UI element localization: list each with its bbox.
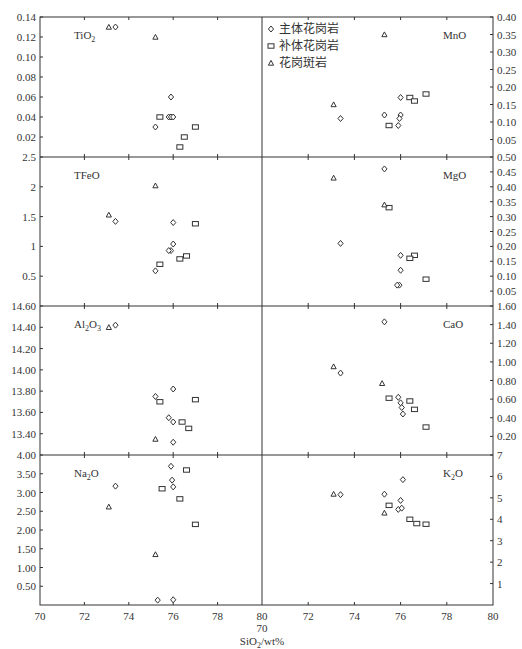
square-marker — [192, 222, 198, 226]
legend-label: 花岗斑岩 — [279, 55, 327, 70]
diamond-marker — [113, 483, 118, 489]
diamond-marker — [113, 218, 118, 224]
y-tick-label: 0.20 — [497, 240, 517, 252]
legend-item-triangle: 花岗斑岩 — [268, 55, 327, 70]
square-marker — [177, 145, 183, 149]
series-square — [386, 92, 429, 128]
square-marker — [407, 517, 413, 521]
square-marker — [179, 420, 185, 424]
y-tick-label: 14.00 — [11, 364, 36, 376]
diamond-marker — [382, 491, 387, 497]
y-tick-label: 6 — [497, 470, 503, 482]
series-square — [386, 396, 429, 429]
y-tick-label: 0.35 — [497, 196, 517, 208]
y-tick-label: 1 — [497, 578, 503, 590]
triangle-marker — [331, 102, 336, 107]
y-tick-label: 0.04 — [17, 111, 37, 123]
diamond-marker — [153, 268, 158, 274]
y-tick-label: 14.40 — [11, 321, 36, 333]
y-tick-label: 0.25 — [497, 64, 517, 76]
series-triangle — [331, 32, 387, 107]
series-square — [386, 503, 429, 526]
square-marker — [414, 521, 420, 525]
diamond-marker — [338, 116, 343, 122]
y-tick-label: 0.06 — [17, 91, 37, 103]
square-marker — [407, 399, 413, 403]
y-tick-label: 4.00 — [17, 449, 37, 461]
panel-mno: 0.050.100.150.200.250.300.350.40MnO — [308, 11, 517, 157]
diamond-marker — [169, 477, 174, 483]
diamond-marker — [168, 463, 173, 469]
square-marker — [407, 256, 413, 260]
triangle-marker — [106, 504, 111, 509]
y-tick-label: 0.10 — [497, 116, 517, 128]
square-marker — [192, 397, 198, 401]
x-tick-label: 72 — [79, 610, 90, 622]
y-tick-label: 2.00 — [17, 524, 37, 536]
triangle-marker — [382, 510, 387, 515]
legend-item-square: 补体花岗岩 — [268, 38, 339, 53]
x-tick-label: 74 — [123, 610, 135, 622]
diamond-marker — [398, 497, 403, 503]
x-tick-label: 78 — [441, 610, 453, 622]
diamond-marker — [382, 319, 387, 325]
y-tick-label: 1 — [31, 240, 37, 252]
y-tick-label: 0.15 — [497, 99, 517, 111]
y-tick-label: 3.00 — [17, 487, 37, 499]
x-tick-label-mid: 70 — [257, 622, 269, 634]
triangle-marker — [380, 381, 385, 386]
triangle-marker — [106, 325, 111, 330]
triangle-marker — [153, 183, 158, 188]
series-square — [159, 468, 198, 527]
series-triangle — [106, 504, 158, 556]
diamond-marker — [398, 252, 403, 258]
series-diamond — [338, 319, 406, 417]
y-tick-label: 1.00 — [17, 562, 37, 574]
panel-label-k2o: K2O — [443, 467, 463, 482]
plot-frame — [40, 17, 493, 605]
square-marker — [157, 400, 163, 404]
panel-na2o: 0.501.001.502.002.503.003.504.00Na2O — [17, 449, 218, 605]
y-tick-label: 2.50 — [17, 505, 37, 517]
square-marker — [411, 407, 417, 411]
y-tick-label: 3 — [497, 535, 503, 547]
y-tick-label: 0.15 — [497, 255, 517, 267]
y-tick-label: 0.12 — [17, 31, 36, 43]
diamond-marker — [338, 370, 343, 376]
y-tick-label: 0.50 — [17, 580, 37, 592]
y-tick-label: 7 — [497, 449, 503, 461]
triangle-marker — [106, 212, 111, 217]
panel-k2o: 1234567K2O — [308, 449, 503, 605]
y-tick-label: 1.50 — [17, 543, 37, 555]
diamond-marker — [166, 415, 171, 421]
legend: 主体花岗岩补体花岗岩花岗斑岩 — [268, 21, 339, 70]
square-marker — [186, 426, 192, 430]
diamond-marker — [400, 477, 405, 483]
y-tick-label: 0.80 — [497, 375, 517, 387]
diamond-marker — [338, 492, 343, 498]
y-tick-label: 2 — [31, 181, 37, 193]
x-tick-label: 76 — [168, 610, 180, 622]
diamond-marker — [382, 166, 387, 172]
diamond-marker — [171, 484, 176, 490]
diamond-marker — [268, 26, 273, 32]
square-marker — [268, 44, 274, 48]
panel-label-al2o3: Al2O3 — [74, 318, 101, 333]
y-tick-label: 4 — [497, 513, 503, 525]
y-tick-label: 0.30 — [497, 211, 517, 223]
panel-label-tfeo: TFeO — [74, 169, 100, 181]
triangle-marker — [268, 60, 273, 65]
y-tick-label: 0.5 — [22, 270, 36, 282]
triangle-marker — [153, 34, 158, 39]
diamond-marker — [171, 220, 176, 226]
series-diamond — [338, 166, 403, 288]
square-marker — [192, 125, 198, 129]
series-square — [157, 115, 199, 149]
panel-label-cao: CaO — [443, 318, 463, 330]
diamond-marker — [396, 394, 401, 400]
y-tick-label: 0.10 — [497, 270, 517, 282]
diamond-marker — [338, 240, 343, 246]
y-tick-label: 0.40 — [497, 181, 517, 193]
y-tick-label: 0.02 — [17, 131, 36, 143]
legend-item-diamond: 主体花岗岩 — [268, 21, 339, 36]
